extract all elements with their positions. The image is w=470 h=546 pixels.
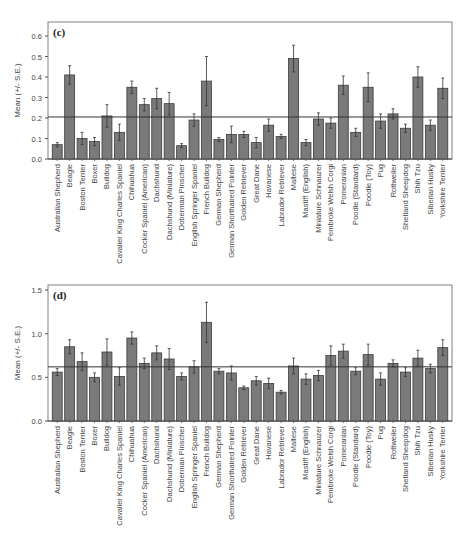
category-label: Shetland Sheepdog [401, 164, 410, 230]
bar-group: English Springer Spaniel [189, 361, 199, 508]
bar-group: Great Dane [251, 137, 261, 202]
bar-group: Boston Terrier [77, 353, 87, 473]
bar-group: Miniature Schnauzer [313, 370, 323, 494]
bar [139, 363, 149, 421]
category-label: Labrador Retriever [277, 163, 286, 226]
bar-chart-c: 0.00.10.20.30.40.50.6Mean (+/- S.E.)(c)A… [0, 0, 470, 270]
bar-group: Beagle [65, 66, 75, 188]
bar [425, 369, 435, 421]
y-axis-label: Mean (+/- S.E.) [13, 63, 22, 118]
category-label: Doberman Pinscher [177, 163, 186, 230]
category-label: Boxer [90, 425, 99, 445]
category-label: Shetland Sheepdog [401, 426, 410, 492]
category-label: German Shepherd [214, 164, 223, 226]
bar-group: English Springer Spaniel [189, 114, 199, 246]
bar-group: Poodle (Standard) [351, 368, 361, 487]
category-label: Poodle (Toy) [364, 426, 373, 469]
bar-group: Poodle (Standard) [351, 128, 361, 225]
bar [65, 347, 75, 421]
bar-group: German Shepherd [214, 369, 224, 488]
category-label: Pembroke Welsh Corgi [326, 426, 335, 503]
y-tick-label: 0.6 [32, 32, 42, 41]
y-tick-label: 1.5 [32, 286, 42, 295]
bar [251, 381, 261, 421]
bar-group: Chihuahua [127, 81, 137, 200]
category-label: Yorkshire Terrier [438, 164, 447, 219]
category-label: Pomeranian [339, 426, 348, 466]
category-label: Havanese [264, 426, 273, 460]
bar-group: Golden Retriever [239, 131, 249, 220]
category-label: Boston Terrier [78, 164, 87, 211]
bar-group: Yorkshire Terrier [438, 340, 448, 480]
category-label: Cocker Spaniel (American) [140, 164, 149, 254]
category-label: Great Dane [252, 164, 261, 203]
category-label: German Shorthaired Pointer [227, 426, 236, 520]
category-label: Dachshund [152, 426, 161, 464]
bar-group: German Shepherd [214, 137, 224, 225]
y-tick-label: 0.5 [32, 53, 42, 62]
bar [413, 358, 423, 421]
category-label: Miniature Schnauzer [314, 164, 323, 233]
bar-group: Mastiff (English) [301, 374, 311, 480]
bar-group: Pomeranian [338, 76, 348, 204]
category-label: Poodle (Standard) [351, 164, 360, 225]
y-tick-label: 0.4 [32, 73, 42, 82]
category-label: Maltese [289, 164, 298, 190]
bar-group: Mastiff (English) [301, 140, 311, 218]
bar-group: Boxer [90, 137, 100, 183]
category-label: Cavalier King Charles Spaniel [115, 164, 124, 264]
category-label: Dachshund [152, 164, 161, 202]
bar-group: French Bulldog [201, 57, 211, 215]
bar-group: Cocker Spaniel (American) [139, 99, 149, 254]
category-label: Poodle (Toy) [364, 164, 373, 207]
bar [214, 140, 224, 159]
category-label: Miniature Schnauzer [314, 426, 323, 495]
bar-group: Miniature Schnauzer [313, 113, 323, 233]
bar [338, 351, 348, 421]
category-label: Siberian Husky [426, 426, 435, 477]
bar-group: Australian Shepherd [52, 143, 62, 232]
bar-group: Chihuahua [127, 332, 137, 462]
bar-group: Pug [376, 373, 386, 439]
bar [239, 134, 249, 159]
category-label: Rottweiler [389, 163, 398, 197]
category-label: Pug [376, 426, 385, 439]
y-tick-label: 0.0 [32, 417, 42, 426]
bar [152, 353, 162, 421]
category-label: Bulldog [102, 164, 111, 189]
bar-group: German Shorthaired Pointer [226, 126, 236, 258]
bar-group: Golden Retriever [239, 386, 249, 483]
category-label: German Shepherd [214, 426, 223, 488]
bar-group: Poodle (Toy) [363, 344, 373, 468]
bar-group: Cocker Spaniel (American) [139, 358, 149, 516]
bar [214, 371, 224, 421]
category-label: Shih Tzu [413, 164, 422, 193]
bar-group: Cavalier King Charles Spaniel [114, 124, 124, 263]
bar-group: Siberian Husky [425, 364, 435, 476]
y-tick-label: 0.1 [32, 135, 42, 144]
panel-label: (c) [53, 26, 66, 39]
bar [351, 371, 361, 421]
bar [338, 85, 348, 159]
category-label: Australian Shepherd [53, 164, 62, 232]
chart-panel-d: 0.00.51.01.5Mean (+/- S.E.)(d)Australian… [0, 270, 470, 546]
y-tick-label: 1.0 [32, 330, 42, 339]
bar-group: Pug [376, 114, 386, 177]
bar-group: Shih Tzu [413, 67, 423, 194]
bar-group: Maltese [289, 358, 299, 452]
bar-group: Doberman Pinscher [177, 144, 187, 231]
bar [52, 372, 62, 421]
bar-group: Boston Terrier [77, 132, 87, 210]
category-label: Havanese [264, 164, 273, 198]
category-label: Rottweiler [389, 425, 398, 459]
category-label: Mastiff (English) [301, 164, 310, 218]
category-label: English Springer Spaniel [190, 164, 199, 246]
category-label: Australian Shepherd [53, 426, 62, 494]
bar-group: Shetland Sheepdog [400, 124, 410, 230]
bar-group: Labrador Retriever [276, 390, 286, 488]
bar [127, 87, 137, 159]
category-label: Shih Tzu [413, 426, 422, 455]
category-label: Chihuahua [127, 425, 136, 462]
bar-group: Rottweiler [388, 360, 398, 459]
category-label: Pembroke Welsh Corgi [326, 164, 335, 241]
